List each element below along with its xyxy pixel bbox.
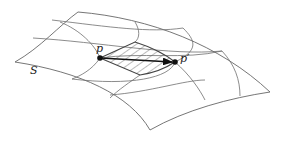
point-p-prime-label: p′ xyxy=(180,53,190,64)
point-p xyxy=(97,55,103,61)
point-p-label: p xyxy=(96,43,103,54)
diagram-canvas: S p p′ xyxy=(0,0,285,141)
surface-figure xyxy=(0,0,285,141)
surface-label: S xyxy=(30,65,38,76)
point-p-prime xyxy=(172,59,178,65)
